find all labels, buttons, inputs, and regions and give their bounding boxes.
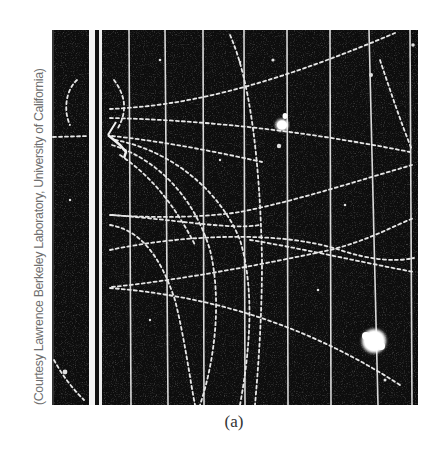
photo-credit: (Courtesy Lawrence Berkeley Laboratory, … xyxy=(31,30,47,405)
bubble-chamber-photo xyxy=(52,30,418,405)
figure: (Courtesy Lawrence Berkeley Laboratory, … xyxy=(0,0,437,468)
figure-label: (a) xyxy=(0,412,437,432)
